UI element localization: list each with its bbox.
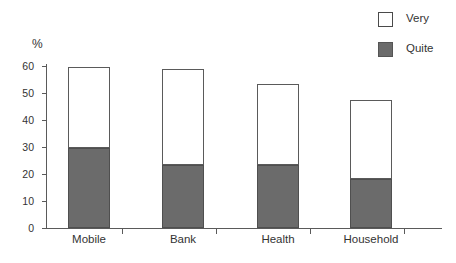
category-label-household: Household xyxy=(344,233,399,245)
plot-area xyxy=(46,66,438,228)
x-tick-3 xyxy=(404,228,405,234)
y-tick-0 xyxy=(42,228,47,229)
y-tick-label-60: 60 xyxy=(8,60,34,72)
bar-segment-very-bank[interactable] xyxy=(162,69,204,165)
x-tick-2 xyxy=(310,228,311,234)
legend-label-very: Very xyxy=(406,13,429,25)
category-label-mobile: Mobile xyxy=(72,233,106,245)
bar-segment-very-mobile[interactable] xyxy=(68,67,110,148)
bar-mobile[interactable] xyxy=(68,66,110,228)
y-tick-label-30: 30 xyxy=(8,141,34,153)
bar-health[interactable] xyxy=(257,66,299,228)
x-tick-1 xyxy=(216,228,217,234)
category-label-health: Health xyxy=(261,233,294,245)
legend-label-quite: Quite xyxy=(406,43,434,55)
y-tick-label-20: 20 xyxy=(8,168,34,180)
white-square-icon xyxy=(378,12,393,27)
bar-household[interactable] xyxy=(350,66,392,228)
bar-segment-quite-mobile[interactable] xyxy=(68,148,110,228)
y-tick-label-50: 50 xyxy=(8,87,34,99)
legend-item-quite[interactable]: Quite xyxy=(378,38,434,60)
bar-bank[interactable] xyxy=(162,66,204,228)
x-tick-0 xyxy=(122,228,123,234)
y-tick-label-10: 10 xyxy=(8,195,34,207)
y-tick-label-40: 40 xyxy=(8,114,34,126)
x-axis-line xyxy=(46,228,442,229)
gray-square-icon xyxy=(378,42,393,57)
category-label-bank: Bank xyxy=(170,233,196,245)
bar-segment-quite-health[interactable] xyxy=(257,165,299,228)
y-tick-label-0: 0 xyxy=(8,222,34,234)
bar-segment-quite-bank[interactable] xyxy=(162,165,204,228)
bar-segment-very-household[interactable] xyxy=(350,100,392,179)
bar-segment-quite-household[interactable] xyxy=(350,179,392,228)
stacked-bar-chart: Very Quite % 0102030405060 MobileBankHea… xyxy=(0,0,456,263)
bar-segment-very-health[interactable] xyxy=(257,84,299,165)
legend-item-very[interactable]: Very xyxy=(378,8,434,30)
chart-legend: Very Quite xyxy=(378,8,434,60)
y-axis-title: % xyxy=(32,37,43,51)
